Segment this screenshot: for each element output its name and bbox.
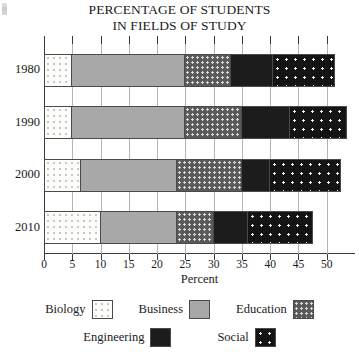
x-tick-label-45: 45 xyxy=(293,258,305,270)
legend-swatch-education xyxy=(293,300,314,319)
bar-segment-1980-social xyxy=(273,54,335,87)
year-label-1990: 1990 xyxy=(0,115,40,130)
chart-legend: BiologyBusinessEducationEngineeringSocia… xyxy=(0,300,359,356)
tick-top-50 xyxy=(327,36,328,44)
x-tick-label-30: 30 xyxy=(208,258,220,270)
x-tick-label-35: 35 xyxy=(236,258,248,270)
plot-area: 05101520253035404550 xyxy=(44,44,355,254)
year-label-2010: 2010 xyxy=(0,220,40,235)
bar-segment-1990-engineering xyxy=(242,106,290,139)
legend-swatch-engineering xyxy=(150,328,171,347)
x-tick-label-10: 10 xyxy=(95,258,107,270)
bar-segment-1980-education xyxy=(185,54,230,87)
bar-segment-2010-biology xyxy=(44,211,101,244)
bar-segment-1990-business xyxy=(72,106,185,139)
x-tick-label-40: 40 xyxy=(264,258,276,270)
year-axis: 1980199020002010 xyxy=(0,44,40,254)
tick-top-30 xyxy=(214,36,215,44)
legend-item-biology: Biology xyxy=(45,300,112,319)
bar-segment-2010-business xyxy=(101,211,177,244)
x-tick-label-5: 5 xyxy=(69,258,75,270)
chart-title: PERCENTAGE OF STUDENTS IN FIELDS OF STUD… xyxy=(0,2,359,34)
legend-item-social: Social xyxy=(217,328,275,347)
bar-segment-2010-engineering xyxy=(214,211,248,244)
legend-item-business: Business xyxy=(139,300,210,319)
legend-label-business: Business xyxy=(139,302,183,317)
bar-segment-2000-business xyxy=(81,159,177,192)
x-tick-label-0: 0 xyxy=(41,258,47,270)
x-tick-label-25: 25 xyxy=(180,258,192,270)
tick-top-0 xyxy=(44,36,45,44)
tick-top-40 xyxy=(270,36,271,44)
tick-top-5 xyxy=(72,36,73,44)
bar-segment-1980-business xyxy=(72,54,185,87)
legend-label-social: Social xyxy=(217,330,248,345)
x-tick-label-15: 15 xyxy=(123,258,135,270)
chart-title-line-1: PERCENTAGE OF STUDENTS xyxy=(0,2,359,18)
bar-segment-2010-social xyxy=(248,211,313,244)
bar-segment-1990-biology xyxy=(44,106,72,139)
bar-segment-1990-education xyxy=(185,106,242,139)
bar-segment-1980-biology xyxy=(44,54,72,87)
legend-label-engineering: Engineering xyxy=(83,330,144,345)
year-label-2000: 2000 xyxy=(0,167,40,182)
bar-segment-1980-engineering xyxy=(231,54,273,87)
tick-top-35 xyxy=(242,36,243,44)
bar-segment-2000-biology xyxy=(44,159,81,192)
legend-swatch-business xyxy=(189,300,210,319)
legend-swatch-social xyxy=(255,328,276,347)
tick-top-45 xyxy=(298,36,299,44)
legend-row-1: BiologyBusinessEducation xyxy=(0,300,359,319)
bar-segment-1990-social xyxy=(290,106,347,139)
chart-title-line-2: IN FIELDS OF STUDY xyxy=(0,18,359,34)
tick-top-25 xyxy=(185,36,186,44)
year-label-1980: 1980 xyxy=(0,62,40,77)
tick-top-15 xyxy=(129,36,130,44)
bar-segment-2010-education xyxy=(177,211,214,244)
tick-top-20 xyxy=(157,36,158,44)
x-tick-label-20: 20 xyxy=(151,258,163,270)
legend-swatch-biology xyxy=(92,300,113,319)
x-tick-label-50: 50 xyxy=(321,258,333,270)
legend-label-education: Education xyxy=(236,302,287,317)
bar-segment-2000-education xyxy=(177,159,242,192)
bar-segment-2000-engineering xyxy=(242,159,270,192)
legend-label-biology: Biology xyxy=(45,302,85,317)
legend-row-2: EngineeringSocial xyxy=(0,328,359,347)
x-axis-title: Percent xyxy=(44,272,355,287)
legend-item-education: Education xyxy=(236,300,314,319)
bar-segment-2000-social xyxy=(270,159,341,192)
legend-item-engineering: Engineering xyxy=(83,328,171,347)
tick-top-10 xyxy=(101,36,102,44)
